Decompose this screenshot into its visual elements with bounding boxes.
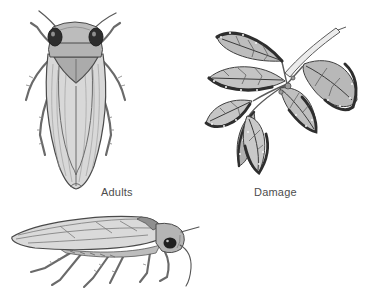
leafhopper-dorsal-illustration — [15, 2, 143, 194]
legs-icon — [31, 252, 169, 287]
leaf-bottom — [243, 116, 267, 173]
leaf-center — [280, 88, 316, 132]
damaged-leaves-illustration — [200, 22, 365, 180]
leafhopper-side-illustration — [5, 203, 205, 303]
forewing — [12, 216, 162, 249]
adults-label: Adults — [101, 186, 133, 198]
leaf-mid-left — [209, 67, 285, 91]
leaf-right — [303, 61, 357, 110]
figure-canvas: Adults Damage — [0, 0, 370, 308]
leaf-upper-left — [217, 32, 282, 61]
eye-icon — [164, 238, 177, 249]
damage-label: Damage — [254, 186, 297, 198]
twig-fork — [338, 27, 346, 30]
